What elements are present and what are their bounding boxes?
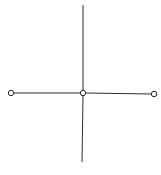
- horizontal-line-right: [86, 93, 151, 94]
- cross-diagram: [0, 0, 161, 175]
- right-node-circle: [151, 91, 156, 96]
- vertical-line-bottom: [82, 96, 83, 162]
- center-node-circle: [80, 90, 85, 95]
- left-node-circle: [8, 90, 13, 95]
